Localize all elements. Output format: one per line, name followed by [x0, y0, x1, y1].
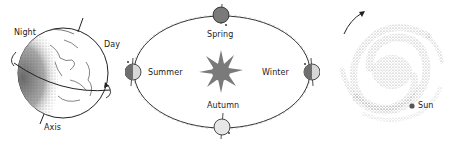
spring-label: Spring [207, 31, 233, 39]
earth-spring-icon [213, 4, 229, 26]
earth-globe-illustration [0, 0, 125, 142]
spiral-galaxy-illustration [320, 0, 454, 142]
rotation-arrow-icon [344, 13, 362, 34]
axis-label: Axis [44, 124, 61, 132]
winter-label: Winter [262, 69, 289, 77]
autumn-label: Autumn [207, 102, 239, 110]
sun-label: Sun [418, 102, 434, 110]
earth-summer-icon [125, 58, 141, 86]
seasons-orbit-panel: Spring Summer Winter Autumn [125, 0, 320, 142]
day-label: Day [104, 41, 120, 49]
earth-rotation-panel: Night Day Axis [0, 0, 125, 142]
earth-autumn-icon [214, 113, 230, 139]
sun-position-marker [409, 103, 414, 108]
earth-winter-icon [304, 58, 320, 86]
sun-icon [199, 50, 243, 93]
galaxy-panel: Sun [320, 0, 454, 142]
night-label: Night [14, 29, 36, 37]
summer-label: Summer [148, 69, 183, 77]
